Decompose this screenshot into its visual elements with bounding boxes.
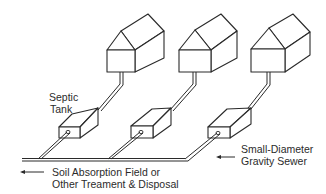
svg-text:Tank: Tank — [50, 103, 73, 115]
svg-text:Other Treament & Disposal: Other Treament & Disposal — [52, 178, 179, 190]
svg-text:Small-Diameter: Small-Diameter — [241, 143, 314, 155]
main-gravity-sewer — [22, 159, 188, 162]
arrow-head — [20, 170, 25, 174]
septic-tank-2 — [131, 108, 171, 138]
house-2 — [179, 14, 237, 72]
svg-text:Gravity Sewer: Gravity Sewer — [241, 155, 307, 167]
svg-text:Septic: Septic — [49, 91, 78, 103]
house-3 — [251, 14, 310, 72]
svg-text:Soil Absorption Field or: Soil Absorption Field or — [52, 166, 160, 178]
septic-tank-3 — [208, 108, 251, 138]
arrow-head — [216, 155, 221, 159]
label-gravity-sewer: Small-Diameter Gravity Sewer — [216, 143, 314, 167]
label-disposal: Soil Absorption Field or Other Treament … — [20, 166, 179, 190]
house-drain-pipes — [98, 72, 270, 111]
label-septic-tank: Septic Tank — [49, 91, 78, 115]
sewer-system-diagram: Septic Tank Small-Diameter Gravity Sewer… — [0, 0, 326, 194]
house-1 — [107, 14, 164, 72]
